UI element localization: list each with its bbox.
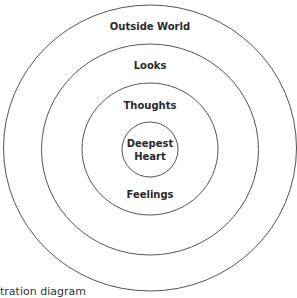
label-feelings: Feelings — [126, 188, 173, 201]
label-heart: Heart — [134, 150, 166, 163]
caption-partial: tration diagram — [0, 286, 86, 298]
label-outside-world: Outside World — [110, 20, 190, 33]
label-looks: Looks — [134, 59, 167, 72]
label-deepest: Deepest — [127, 137, 174, 150]
label-thoughts: Thoughts — [124, 99, 177, 112]
